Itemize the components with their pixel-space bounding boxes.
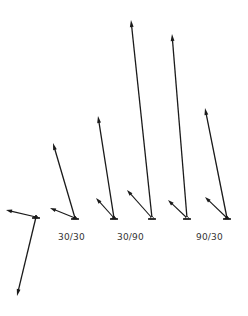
fig-c: [96, 116, 118, 219]
label-90-30: 90/30: [196, 232, 223, 242]
label-30-30: 30/30: [58, 232, 85, 242]
arrowhead-icon: [171, 34, 175, 41]
long-arrow-shaft: [55, 149, 75, 218]
long-arrow-shaft: [132, 26, 152, 218]
short-arrow-shaft: [11, 211, 36, 217]
fig-d: [127, 20, 156, 219]
arrowhead-icon: [50, 208, 56, 212]
label-30-90: 30/90: [117, 232, 144, 242]
arrowhead-icon: [6, 210, 12, 214]
arrowhead-icon: [205, 108, 209, 115]
long-arrow-shaft: [206, 114, 227, 218]
arrowhead-icon: [130, 20, 134, 27]
arrowhead-icon: [97, 116, 101, 123]
fig-f: [205, 108, 231, 219]
short-arrow-shaft: [172, 203, 187, 218]
fig-b: [50, 143, 79, 219]
figures-layer: [6, 20, 231, 296]
long-arrow-shaft: [172, 40, 187, 218]
short-arrow-shaft: [55, 210, 75, 218]
fig-a: [6, 210, 40, 296]
long-arrow-shaft: [18, 217, 36, 290]
arrowhead-icon: [17, 289, 21, 296]
arrowhead-icon: [53, 143, 57, 150]
short-arrow-shaft: [130, 194, 152, 218]
fig-e: [168, 34, 191, 219]
vector-diagram: [0, 0, 248, 316]
